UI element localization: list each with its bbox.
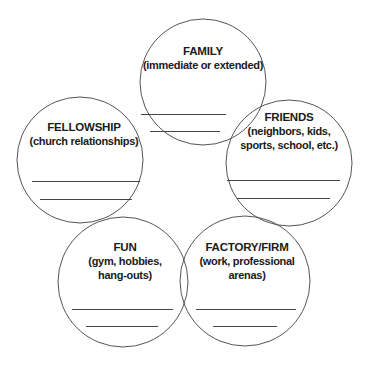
five-f-relationship-diagram: FAMILY (immediate or extended) FELLOWSHI… xyxy=(0,0,368,366)
circle-fellowship xyxy=(17,97,143,223)
fellowship-subtitle: (church relationships) xyxy=(28,134,140,148)
fun-title: FUN xyxy=(73,240,177,254)
fellowship-title: FELLOWSHIP xyxy=(28,120,140,134)
fellowship-blank-line-1[interactable] xyxy=(32,181,140,182)
friends-blank-line-1[interactable] xyxy=(227,180,340,181)
friends-title: FRIENDS xyxy=(232,110,346,124)
fellowship-blank-line-2[interactable] xyxy=(40,199,132,200)
factory-label: FACTORY/FIRM (work, professional arenas) xyxy=(192,240,302,282)
fun-subtitle-line-1: (gym, hobbies, xyxy=(73,254,177,268)
factory-blank-line-1[interactable] xyxy=(196,309,296,310)
family-title: FAMILY xyxy=(138,44,268,58)
friends-subtitle-line-1: (neighbors, kids, xyxy=(232,124,346,138)
family-blank-line-2[interactable] xyxy=(150,131,220,132)
fellowship-label: FELLOWSHIP (church relationships) xyxy=(28,120,140,148)
fun-subtitle-line-2: hang-outs) xyxy=(73,268,177,282)
factory-blank-line-2[interactable] xyxy=(213,326,277,327)
factory-subtitle-line-1: (work, professional xyxy=(192,254,302,268)
friends-label: FRIENDS (neighbors, kids, sports, school… xyxy=(232,110,346,152)
factory-subtitle-line-2: arenas) xyxy=(192,268,302,282)
family-label: FAMILY (immediate or extended) xyxy=(138,44,268,72)
friends-blank-line-2[interactable] xyxy=(237,198,330,199)
family-subtitle: (immediate or extended) xyxy=(138,58,268,72)
fun-label: FUN (gym, hobbies, hang-outs) xyxy=(73,240,177,282)
family-blank-line-1[interactable] xyxy=(141,114,226,115)
factory-title: FACTORY/FIRM xyxy=(192,240,302,254)
circle-fun xyxy=(58,217,188,347)
fun-blank-line-2[interactable] xyxy=(86,326,158,327)
fun-blank-line-1[interactable] xyxy=(72,309,173,310)
friends-subtitle-line-2: sports, school, etc.) xyxy=(232,138,346,152)
